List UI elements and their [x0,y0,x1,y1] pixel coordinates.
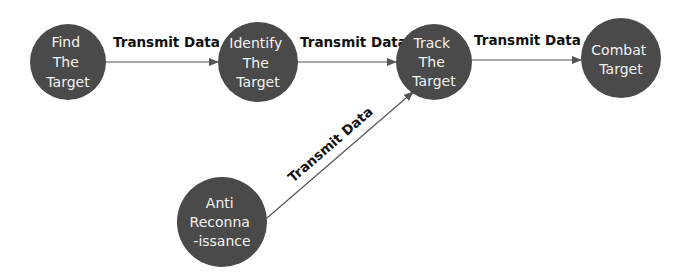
edge-find-to-identify: Transmit Data [106,34,220,62]
node-circle [581,18,661,98]
node-track-the-target: Track The Target [396,24,472,100]
edge-label: Transmit Data [285,103,376,185]
edge-identify-to-track: Transmit Data [298,34,407,62]
node-anti-reconnaissance: Anti Reconna -issance [177,177,267,267]
edge-anti-to-track: Transmit Data [267,92,413,218]
node-identify-the-target: Identify The Target [218,22,298,102]
edge-label: Transmit Data [474,32,581,48]
edge-track-to-combat: Transmit Data [472,32,581,60]
flow-diagram: Transmit Data Transmit Data Transmit Dat… [0,0,687,280]
node-find-the-target: Find The Target [30,24,106,100]
edge-label: Transmit Data [113,34,220,50]
edge-label: Transmit Data [300,34,407,50]
node-combat-target: Combat Target [581,18,661,98]
edge-line [267,92,413,218]
